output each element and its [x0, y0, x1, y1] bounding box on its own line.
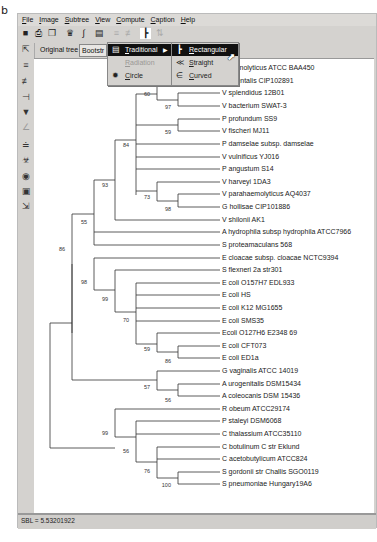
- leaf-label[interactable]: E coli SMS35: [222, 317, 264, 324]
- leaf-label[interactable]: V shilonii AK1: [222, 216, 265, 223]
- bootstrap-value: 97: [155, 104, 171, 110]
- leaf-label[interactable]: C botulinum C str Eklund: [222, 443, 299, 450]
- leaf-label[interactable]: A hydrophila subsp hydrophila ATCC7966: [222, 228, 351, 235]
- bootstrap-value: 55: [71, 219, 87, 225]
- menu-item-traditional[interactable]: ▤ Traditional ▶: [108, 44, 171, 56]
- rectangular-icon: ┣: [174, 44, 185, 56]
- leaf-label[interactable]: E coli CFT073: [222, 342, 266, 349]
- leaf-label[interactable]: A coleocanis DSM 15436: [222, 392, 300, 399]
- mouse-cursor-icon: ⬈: [227, 51, 235, 62]
- leaf-label[interactable]: E coli ED1a: [222, 354, 259, 361]
- bootstrap-value: 99: [92, 296, 108, 302]
- circle-icon: ✹: [110, 70, 121, 82]
- bootstrap-value: 86: [49, 246, 65, 252]
- bootstrap-value: 98: [155, 206, 171, 212]
- bootstrap-value: 93: [92, 182, 108, 188]
- bootstrap-value: 73: [134, 194, 150, 200]
- curved-icon: ∈: [174, 70, 185, 82]
- leaf-label[interactable]: A urogenitalis DSM15434: [222, 380, 301, 387]
- bootstrap-value: 98: [71, 279, 87, 285]
- leaf-label[interactable]: Ecoli O127H6 E2348 69: [222, 329, 297, 336]
- leaf-label[interactable]: V harveyi 1DA3: [222, 178, 271, 185]
- menu-item-curved[interactable]: ∈ Curved: [172, 70, 238, 82]
- leaf-label[interactable]: P damselae subsp. damselae: [222, 140, 314, 147]
- leaf-label[interactable]: S proteamaculans 568: [222, 241, 292, 248]
- leaf-label[interactable]: C acetobutylicum ATCC824: [222, 455, 307, 462]
- bootstrap-value: 59: [155, 129, 171, 135]
- leaf-label[interactable]: V bacterium SWAT-3: [222, 102, 287, 109]
- traditional-icon: ▤: [110, 44, 121, 56]
- leaf-label[interactable]: P angustum S14: [222, 165, 274, 172]
- leaf-label[interactable]: E coli K12 MG1655: [222, 304, 282, 311]
- bootstrap-value: 76: [134, 468, 150, 474]
- bootstrap-value: 84: [113, 142, 129, 148]
- menu-item-radiation[interactable]: Radiation: [108, 57, 171, 69]
- leaf-label[interactable]: G vaginalis ATCC 14019: [222, 367, 298, 374]
- leaf-label[interactable]: V fischeri MJ11: [222, 127, 269, 134]
- leaf-label[interactable]: R obeum ATCC29174: [222, 405, 290, 412]
- leaf-label[interactable]: V splendidus 12B01: [222, 89, 284, 96]
- leaf-label[interactable]: V parahaemolyticus AQ4037: [222, 190, 311, 197]
- layout-menu: ▤ Traditional ▶ Radiation ✹ Circle: [107, 42, 172, 86]
- leaf-label[interactable]: P staleyi DSM6068: [222, 417, 281, 424]
- leaf-label[interactable]: P profundum SS9: [222, 115, 277, 122]
- leaf-label[interactable]: C thalassium ATCC35110: [222, 430, 302, 437]
- leaf-label[interactable]: G hollisae CIP101886: [222, 203, 290, 210]
- menu-item-circle[interactable]: ✹ Circle: [108, 70, 171, 82]
- leaf-label[interactable]: S flexneri 2a str301: [222, 266, 282, 273]
- bootstrap-value: 100: [155, 482, 171, 488]
- leaf-label[interactable]: E coli O157H7 EDL933: [222, 279, 294, 286]
- bootstrap-value: 60: [134, 91, 150, 97]
- traditional-submenu: ┣ Rectangular ≪ Straight ∈ Curved: [171, 42, 239, 86]
- bootstrap-value: 56: [155, 397, 171, 403]
- leaf-label[interactable]: E coli HS: [222, 291, 251, 298]
- bootstrap-value: 57: [134, 384, 150, 390]
- bootstrap-value: 99: [92, 430, 108, 436]
- bootstrap-value: 59: [134, 346, 150, 352]
- leaf-label[interactable]: E cloacae subsp. cloacae NCTC9394: [222, 254, 338, 261]
- leaf-label[interactable]: V vulnificus YJ016: [222, 153, 279, 160]
- bootstrap-value: 56: [113, 448, 129, 454]
- leaf-label[interactable]: S pneumoniae Hungary19A6: [222, 480, 312, 487]
- bootstrap-value: 86: [155, 358, 171, 364]
- bootstrap-value: 70: [113, 317, 129, 323]
- straight-icon: ≪: [174, 57, 185, 69]
- submenu-arrow-icon: ▶: [163, 44, 168, 56]
- leaf-label[interactable]: S gordonii str Challis SGO0119: [222, 468, 319, 475]
